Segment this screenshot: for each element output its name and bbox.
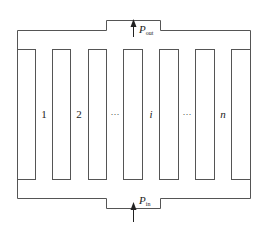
channel-label-n: n (220, 108, 226, 120)
inlet-pressure-label: Pin (139, 194, 150, 207)
inlet-pressure-subscript: in (146, 201, 151, 207)
outlet-pressure-label: Pout (139, 23, 153, 36)
wall-4 (124, 50, 143, 180)
wall-6 (196, 50, 215, 180)
wall-2 (53, 50, 71, 180)
wall-5 (160, 50, 179, 180)
wall-1 (18, 50, 36, 180)
wall-3 (89, 50, 107, 180)
inlet-pressure-symbol: P (139, 194, 146, 206)
wall-7 (232, 50, 251, 180)
inlet-arrow-icon (131, 202, 137, 222)
channel-label-2: 2 (76, 108, 82, 120)
outlet-pressure-symbol: P (139, 23, 146, 35)
channel-label-ellipsis-1: ··· (111, 109, 120, 119)
outlet-arrow-icon (131, 19, 137, 37)
channel-label-ellipsis-2: ··· (183, 109, 192, 119)
channel-label-i: i (149, 108, 152, 120)
outlet-pressure-subscript: out (146, 30, 154, 36)
channel-label-1: 1 (41, 108, 47, 120)
